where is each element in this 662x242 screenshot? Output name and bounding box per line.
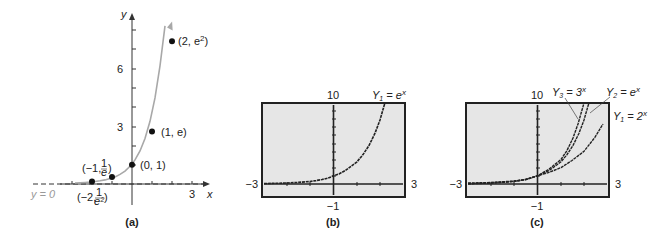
point-0 xyxy=(129,162,135,168)
figure: 3 6 3 x y y = 0 (2, e2) (1, e) (0, 1) (−… xyxy=(0,0,662,242)
point-1 xyxy=(149,129,155,135)
x-axis-arrow-icon xyxy=(203,181,210,187)
panel-c: 10 −3 3 −1 Y3 = 3x Y2 = ex Y1 = 2x (c) xyxy=(449,85,647,228)
label-point-0: (0, 1) xyxy=(140,159,166,171)
xmin-label-b: −3 xyxy=(245,178,258,190)
series-label-y2: Y2 = ex xyxy=(606,85,641,99)
x-axis-label: x xyxy=(206,188,213,200)
y-axis-label: y xyxy=(120,8,128,20)
y-tick-label-3: 3 xyxy=(117,121,123,133)
xmax-label-b: 3 xyxy=(411,178,417,190)
series-label-y1: Y1 = 2x xyxy=(613,109,648,123)
svg-text:): ) xyxy=(108,162,112,174)
panel-b: 10 −3 3 −1 Y1 = ex (b) xyxy=(245,88,417,228)
y-tick-label-6: 6 xyxy=(117,63,123,75)
caption-b: (b) xyxy=(326,216,340,228)
label-point-neg1: (−1, 1 e ) xyxy=(82,157,112,178)
point-neg1 xyxy=(109,174,115,180)
curve-arrow-icon xyxy=(166,22,173,32)
svg-text:e²: e² xyxy=(94,195,104,207)
label-point-2: (2, e2) xyxy=(178,34,208,47)
caption-c: (c) xyxy=(530,216,544,228)
svg-text:e: e xyxy=(101,166,107,178)
series-label-y3: Y3 = 3x xyxy=(552,85,587,99)
series-label-b: Y1 = ex xyxy=(372,88,407,102)
y-ticks xyxy=(132,30,136,165)
point-neg2 xyxy=(89,178,95,184)
x-tick-label-3: 3 xyxy=(189,188,195,200)
panel-a: 3 6 3 x y y = 0 (2, e2) (1, e) (0, 1) (−… xyxy=(30,8,213,228)
ymin-label-b: −1 xyxy=(327,200,340,212)
xmax-label-c: 3 xyxy=(615,178,621,190)
label-point-1: (1, e) xyxy=(161,126,187,138)
caption-a: (a) xyxy=(125,216,139,228)
ymax-label-c: 10 xyxy=(531,89,543,101)
asymptote-label: y = 0 xyxy=(30,188,56,200)
point-2 xyxy=(169,38,175,44)
ymin-label-c: −1 xyxy=(531,200,544,212)
svg-text:(−1,: (−1, xyxy=(82,162,101,174)
xmin-label-c: −3 xyxy=(449,178,462,190)
ymax-label-b: 10 xyxy=(327,89,339,101)
label-point-neg2: (−2, 1 e² ) xyxy=(77,186,108,207)
svg-text:): ) xyxy=(104,191,108,203)
y-axis-arrow-icon xyxy=(129,13,135,20)
